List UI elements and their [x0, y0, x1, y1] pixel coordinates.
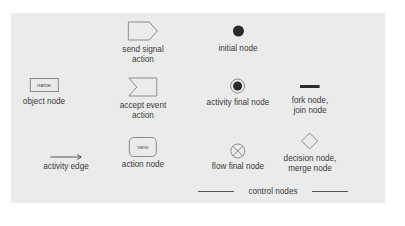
group-line-left [198, 191, 234, 192]
activity-final-node: activity final node [207, 78, 270, 108]
decision-merge-label: decision node, merge node [284, 154, 337, 174]
send-signal-shape-icon [127, 21, 159, 41]
control-nodes-group: control nodes [198, 187, 348, 196]
action-node-name: name [137, 145, 148, 150]
decision-merge-node: decision node, merge node [284, 132, 337, 174]
action-node-label: action node [122, 160, 164, 170]
object-node-name: name [37, 82, 51, 88]
accept-event-shape-icon [128, 77, 158, 97]
fork-join-bar-icon [300, 85, 320, 89]
initial-node: initial node [218, 24, 257, 54]
initial-node-label: initial node [218, 44, 257, 54]
activity-edge-label: activity edge [43, 162, 89, 172]
decision-diamond-icon [301, 132, 319, 150]
accept-event-action: accept event action [120, 77, 166, 121]
object-node: name object node [23, 78, 65, 107]
flow-final-node-label: flow final node [212, 162, 264, 172]
activity-final-node-icon [230, 78, 246, 94]
notation-panel [11, 13, 385, 203]
initial-node-icon [231, 24, 245, 38]
action-node-box: name [129, 137, 157, 157]
activity-edge-arrow-icon [49, 154, 83, 160]
object-node-box: name [30, 78, 59, 92]
fork-join-label: fork node, join node [292, 96, 328, 116]
group-line-right [312, 191, 348, 192]
send-signal-label: send signal action [122, 45, 163, 65]
accept-event-label: accept event action [120, 101, 166, 121]
action-node: name action node [122, 137, 164, 170]
send-signal-action: send signal action [122, 21, 163, 65]
fork-join-node: fork node, join node [292, 85, 328, 116]
flow-final-node: flow final node [212, 143, 264, 172]
control-nodes-label: control nodes [248, 187, 297, 196]
activity-final-node-label: activity final node [207, 98, 270, 108]
object-node-label: object node [23, 97, 65, 107]
activity-edge: activity edge [43, 154, 89, 172]
flow-final-node-icon [230, 143, 246, 159]
